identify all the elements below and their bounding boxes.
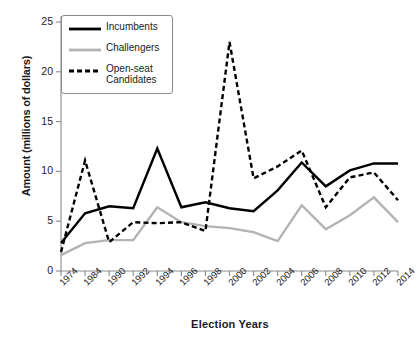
legend-item: Challengers bbox=[69, 42, 159, 54]
y-tick-label: 5 bbox=[27, 214, 53, 226]
x-axis-title: Election Years bbox=[60, 318, 400, 330]
legend-swatch-solid bbox=[69, 42, 101, 54]
legend-item: Open-seatCandidates bbox=[69, 63, 157, 85]
y-tick-label: 20 bbox=[27, 65, 53, 77]
legend-item: Incumbents bbox=[69, 21, 158, 33]
chart-legend: IncumbentsChallengersOpen-seatCandidates bbox=[61, 15, 173, 94]
y-tick-label: 0 bbox=[27, 264, 53, 276]
y-tick-label: 10 bbox=[27, 164, 53, 176]
legend-label: Challengers bbox=[106, 42, 159, 53]
y-tick-label: 25 bbox=[27, 15, 53, 27]
legend-label: Open-seatCandidates bbox=[106, 63, 157, 85]
legend-swatch-dashed bbox=[69, 63, 101, 75]
y-tick-label: 15 bbox=[27, 115, 53, 127]
legend-label: Incumbents bbox=[106, 21, 158, 32]
legend-swatch-solid bbox=[69, 21, 101, 33]
